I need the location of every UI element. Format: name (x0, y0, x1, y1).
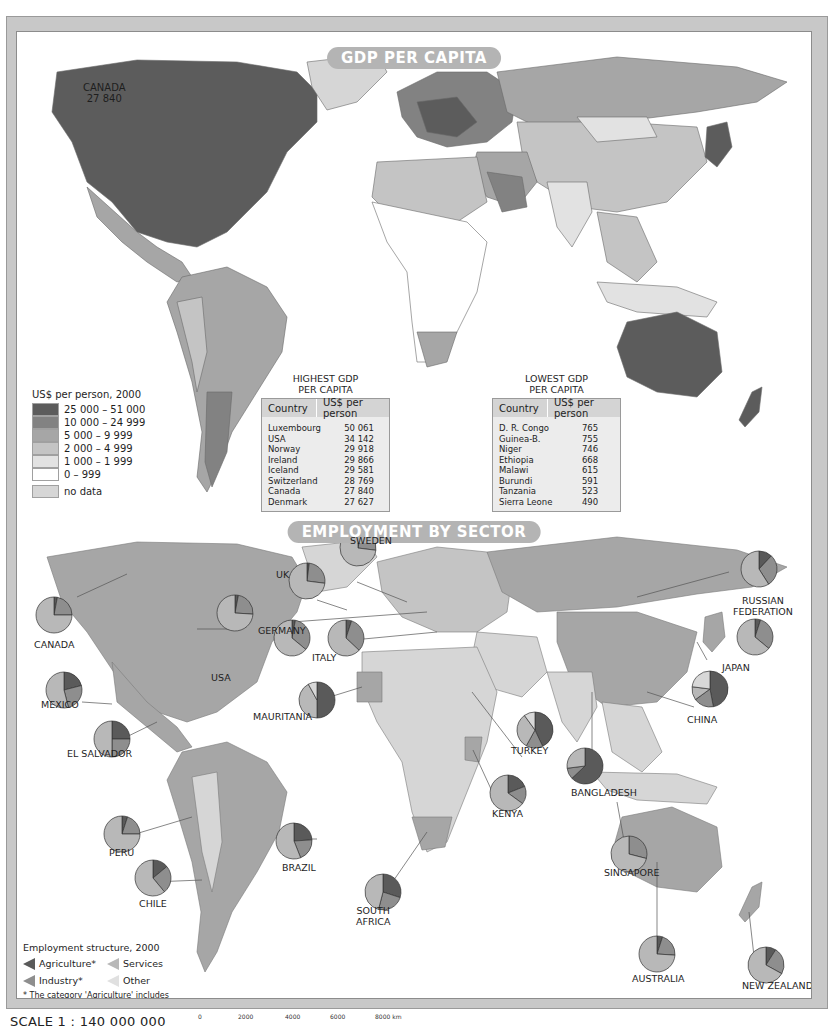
gdp-map-title: GDP PER CAPITA (327, 47, 501, 69)
lowest-gdp-table-block: LOWEST GDP PER CAPITA Country US$ per pe… (492, 373, 621, 512)
pie-label-singapore: SINGAPORE (604, 867, 660, 878)
table-row: Iceland29 581 (262, 465, 389, 476)
cell-value: 668 (560, 455, 620, 466)
table-row: Malawi615 (493, 465, 620, 476)
gdp-legend-label: 10 000 – 24 999 (64, 417, 145, 428)
pie-label-bangladesh: BANGLADESH (571, 787, 637, 798)
scale-tick: 0 (198, 1013, 202, 1020)
region-indonesia (597, 282, 717, 317)
cell-country: Norway (262, 444, 329, 455)
gdp-legend-swatch (32, 485, 59, 498)
region-new-zealand (739, 882, 762, 922)
table-row: USA34 142 (262, 434, 389, 445)
other-wedge-icon (107, 975, 119, 987)
pie-chart-australia (639, 936, 675, 972)
industry-wedge-icon (23, 975, 35, 987)
pie-chart-turkey (517, 712, 553, 748)
table-row: Tanzania523 (493, 486, 620, 497)
employment-legend-row: Agriculture* Services (23, 955, 193, 972)
heading-line: HIGHEST GDP (261, 373, 390, 384)
employment-legend-title: Employment structure, 2000 (23, 942, 193, 953)
pie-chart-japan (737, 619, 773, 655)
column-header-country: Country (493, 399, 548, 417)
table-body: Luxembourg50 061 USA34 142 Norway29 918 … (262, 417, 389, 511)
cell-country: Niger (493, 444, 560, 455)
region-southeast-asia (602, 702, 662, 772)
region-new-zealand (739, 387, 762, 427)
canada-callout-name: CANADA (83, 82, 126, 93)
cell-country: Ireland (262, 455, 329, 466)
highest-gdp-heading: HIGHEST GDP PER CAPITA (261, 373, 390, 395)
pie-chart-usa (217, 595, 253, 631)
table-row: Ethiopia668 (493, 455, 620, 466)
column-header-value: US$ per person (317, 397, 389, 419)
cell-value: 615 (560, 465, 620, 476)
pie-label-italy: ITALY (312, 652, 336, 663)
table-row: Ireland29 866 (262, 455, 389, 466)
cell-country: Guinea-B. (493, 434, 560, 445)
highest-gdp-table-block: HIGHEST GDP PER CAPITA Country US$ per p… (261, 373, 390, 512)
cell-country: Ethiopia (493, 455, 560, 466)
pie-chart-uk (289, 563, 325, 599)
table-row: Norway29 918 (262, 444, 389, 455)
cell-country: Canada (262, 486, 329, 497)
cell-value: 27 627 (329, 497, 389, 508)
cell-value: 746 (560, 444, 620, 455)
pie-label-russian-federation: RUSSIAN FEDERATION (733, 595, 793, 617)
column-header-value: US$ per person (548, 397, 620, 419)
table-row: D. R. Congo765 (493, 423, 620, 434)
pie-label-turkey: TURKEY (511, 745, 548, 756)
pie-label-kenya: KENYA (492, 808, 523, 819)
table-row: Sierra Leone490 (493, 497, 620, 508)
cell-country: Luxembourg (262, 423, 329, 434)
cell-value: 765 (560, 423, 620, 434)
region-japan (703, 612, 725, 652)
cell-value: 591 (560, 476, 620, 487)
cell-value: 27 840 (329, 486, 389, 497)
scale-tick: 6000 (330, 1013, 345, 1020)
heading-line: LOWEST GDP (492, 373, 621, 384)
agriculture-wedge-icon (23, 958, 35, 970)
pie-label-mexico: MEXICO (41, 699, 79, 710)
services-wedge-icon (107, 958, 119, 970)
pie-label-japan: JAPAN (722, 662, 750, 673)
pie-slice (112, 721, 130, 739)
pie-chart-chile (135, 860, 171, 896)
gdp-legend-swatch (32, 429, 59, 442)
employment-legend-row: Industry* Other (23, 972, 193, 989)
region-india (547, 182, 592, 247)
gdp-legend-label: no data (64, 486, 102, 497)
pie-chart-bangladesh (567, 748, 603, 784)
lowest-gdp-table: Country US$ per person D. R. Congo765 Gu… (492, 398, 621, 512)
gdp-legend-row: 1 000 – 1 999 (32, 455, 145, 468)
pie-label-uk: UK (276, 569, 289, 580)
gdp-legend-swatch (32, 442, 59, 455)
scale-tick: 2000 (238, 1013, 253, 1020)
pie-chart-italy (328, 620, 364, 656)
employment-by-sector-panel: EMPLOYMENT BY SECTOR CANADA USA UK SWEDE… (17, 512, 811, 998)
canada-callout-value: 27 840 (83, 93, 126, 104)
employment-world-map (17, 512, 811, 998)
table-row: Luxembourg50 061 (262, 423, 389, 434)
cell-country: Iceland (262, 465, 329, 476)
region-australia (617, 312, 722, 397)
pie-label-el-salvador: EL SALVADOR (67, 748, 132, 759)
cell-value: 34 142 (329, 434, 389, 445)
gdp-per-capita-panel: GDP PER CAPITA CANADA 27 840 US$ per per… (17, 32, 811, 512)
scale-tick: 8000 km (375, 1013, 402, 1020)
pie-label-germany: GERMANY (258, 625, 306, 636)
heading-line: PER CAPITA (492, 384, 621, 395)
pie-slice (317, 682, 335, 718)
region-south-america (167, 742, 287, 972)
legend-label-other: Other (123, 975, 150, 986)
scale-bar: SCALE 1 : 140 000 000 0 2000 4000 6000 8… (0, 1012, 828, 1031)
gdp-legend-row: 5 000 – 9 999 (32, 429, 145, 442)
label-line: FEDERATION (733, 606, 793, 617)
gdp-legend-row: 0 – 999 (32, 468, 145, 481)
cell-value: 28 769 (329, 476, 389, 487)
table-row: Canada27 840 (262, 486, 389, 497)
cell-country: Denmark (262, 497, 329, 508)
heading-line: PER CAPITA (261, 384, 390, 395)
gdp-legend-swatch (32, 403, 59, 416)
gdp-legend: US$ per person, 2000 25 000 – 51 000 10 … (32, 389, 145, 498)
